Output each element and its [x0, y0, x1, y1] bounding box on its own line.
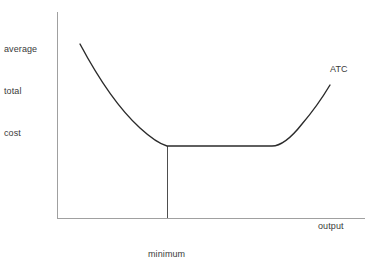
x-axis-label: output	[318, 219, 344, 233]
atc-cost-curve-figure: average total cost minimum efficient sca…	[0, 0, 379, 273]
y-axis-label-line-1: average	[4, 42, 52, 56]
y-axis-label-line-3: cost	[4, 126, 52, 140]
atc-curve	[80, 44, 330, 146]
y-axis-label: average total cost	[4, 14, 52, 168]
mes-label-line-1: minimum	[148, 247, 218, 261]
minimum-efficient-scale-label: minimum efficient scale	[148, 219, 218, 273]
atc-curve-label: ATC	[330, 62, 348, 76]
y-axis-label-line-2: total	[4, 84, 52, 98]
